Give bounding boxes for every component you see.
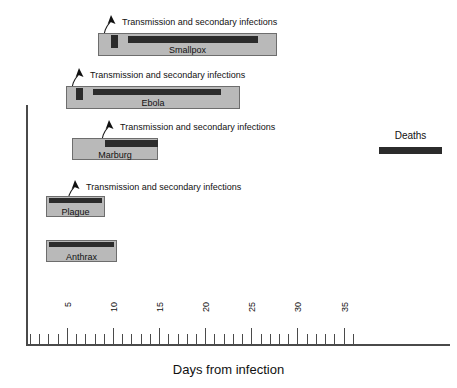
- x-tick-minor: [104, 334, 105, 344]
- x-tick-major: [251, 328, 252, 344]
- x-tick-minor: [307, 334, 308, 344]
- x-tick-label: 10: [109, 302, 119, 312]
- course-label-smallpox: Smallpox: [99, 45, 276, 55]
- callout-label-plague: Transmission and secondary infections: [86, 182, 241, 192]
- x-tick-major: [205, 328, 206, 344]
- y-axis-line: [26, 105, 28, 345]
- course-label-ebola: Ebola: [67, 98, 239, 108]
- x-tick-minor: [196, 334, 197, 344]
- course-label-plague: Plague: [47, 207, 104, 217]
- x-tick-major: [113, 328, 114, 344]
- x-tick-label: 5: [63, 302, 73, 307]
- x-tick-minor: [353, 334, 354, 344]
- x-tick-minor: [58, 334, 59, 344]
- deaths-bar-anthrax: [49, 242, 114, 247]
- x-tick-minor: [168, 334, 169, 344]
- x-tick-minor: [279, 334, 280, 344]
- course-label-marburg: Marburg: [73, 150, 157, 160]
- x-tick-minor: [150, 334, 151, 344]
- x-tick-minor: [178, 334, 179, 344]
- x-tick-minor: [39, 334, 40, 344]
- x-tick-minor: [131, 334, 132, 344]
- x-tick-minor: [288, 334, 289, 344]
- x-tick-minor: [316, 334, 317, 344]
- x-tick-label: 25: [247, 302, 257, 312]
- x-tick-label: 30: [293, 302, 303, 312]
- callout-label-ebola: Transmission and secondary infections: [90, 70, 245, 80]
- x-tick-minor: [141, 334, 142, 344]
- x-tick-major: [159, 328, 160, 344]
- x-tick-label: 35: [340, 302, 350, 312]
- deaths-bar-smallpox: [128, 36, 258, 43]
- x-tick-minor: [261, 334, 262, 344]
- legend-label-deaths: Deaths: [379, 130, 442, 141]
- x-tick-label: 20: [201, 302, 211, 312]
- x-tick-minor: [48, 334, 49, 344]
- x-axis-line: [26, 344, 450, 346]
- x-tick-major: [344, 328, 345, 344]
- x-tick-minor: [224, 334, 225, 344]
- x-tick-minor: [325, 334, 326, 344]
- deaths-bar-plague: [49, 198, 102, 203]
- x-tick-minor: [270, 334, 271, 344]
- legend-swatch-deaths: [379, 147, 442, 154]
- x-tick-minor: [122, 334, 123, 344]
- x-tick-minor: [233, 334, 234, 344]
- x-tick-minor: [334, 334, 335, 344]
- onset-marker-smallpox: [111, 35, 118, 48]
- x-tick-minor: [85, 334, 86, 344]
- x-tick-minor: [76, 334, 77, 344]
- x-tick-minor: [187, 334, 188, 344]
- x-tick-minor: [214, 334, 215, 344]
- deaths-bar-marburg: [105, 140, 158, 147]
- x-tick-minor: [242, 334, 243, 344]
- callout-label-smallpox: Transmission and secondary infections: [122, 17, 277, 27]
- x-tick-minor: [30, 334, 31, 344]
- timeline-chart: Transmission and secondary infections Sm…: [0, 0, 457, 388]
- course-label-anthrax: Anthrax: [47, 252, 116, 262]
- onset-marker-ebola: [76, 88, 83, 100]
- x-tick-minor: [95, 334, 96, 344]
- x-axis-title: Days from infection: [0, 362, 457, 377]
- callout-label-marburg: Transmission and secondary infections: [120, 122, 275, 132]
- x-tick-label: 15: [155, 302, 165, 312]
- deaths-bar-ebola: [93, 89, 221, 95]
- x-tick-major: [67, 328, 68, 344]
- x-tick-major: [297, 328, 298, 344]
